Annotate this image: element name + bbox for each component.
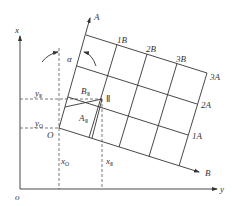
yII-label: yⅡ: [34, 88, 42, 99]
AII-label: AⅡ: [78, 113, 88, 124]
grid-a-line-3: [149, 64, 177, 157]
grid-a-line-4: [179, 73, 207, 166]
tick-2A: 2A: [201, 100, 212, 110]
angle-label: α: [67, 54, 72, 64]
tick-2B: 2B: [146, 44, 157, 54]
B-axis: [59, 128, 199, 172]
y-axis-label: y: [219, 184, 224, 194]
A-axis: [59, 18, 90, 128]
grid-a-line-2: [119, 54, 147, 147]
B-axis-label: B: [205, 168, 211, 178]
grid-b-line-3: [86, 35, 207, 73]
point-II-label: Ⅱ: [106, 94, 110, 104]
x-axis-label: x: [14, 25, 19, 35]
coordinate-rotation-diagram: x y o α A B O 1B 2B 3B 3A 2A 1A Ⅱ yⅡ yO …: [0, 0, 234, 206]
tick-3A: 3A: [209, 72, 221, 82]
rotation-arc-main: [42, 52, 58, 62]
grid-a-line-1: [89, 45, 117, 138]
tick-1A: 1A: [192, 131, 203, 141]
A-axis-label: A: [93, 12, 100, 22]
grid-b-line-2: [77, 66, 197, 104]
BII-label: BⅡ: [81, 86, 90, 97]
tick-3B: 3B: [175, 54, 187, 64]
tick-1B: 1B: [117, 35, 128, 45]
xO-label: xO: [60, 156, 69, 167]
origin-label: o: [15, 192, 20, 202]
rotation-arc: [84, 52, 96, 66]
O-label: O: [47, 130, 54, 140]
xII-label: xⅡ: [105, 156, 113, 167]
yO-label: yO: [34, 118, 43, 129]
